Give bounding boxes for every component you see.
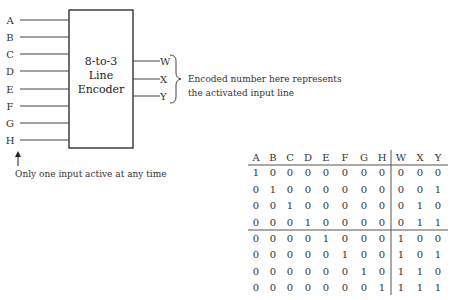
table-cell: 0 (287, 167, 293, 178)
table-cell: 1 (270, 184, 276, 195)
table-cell: 0 (253, 233, 259, 244)
table-header-f: F (342, 152, 349, 163)
table-cell: 1 (417, 282, 423, 293)
table-cell: 0 (417, 233, 423, 244)
table-cell: 0 (323, 200, 329, 211)
table-cell: 0 (253, 282, 259, 293)
table-cell: 0 (417, 184, 423, 195)
table-header-d: D (304, 152, 312, 163)
table-cell: 1 (305, 217, 311, 228)
input-label-g: G (6, 118, 14, 129)
table-header-y: Y (434, 152, 442, 163)
table-cell: 0 (361, 249, 367, 260)
table-cell: 1 (417, 217, 423, 228)
output-annotation-line-1: Encoded number here represents (188, 74, 342, 84)
table-row: 10000000000 (253, 167, 441, 178)
encoder-title-line-1: 8-to-3 (85, 55, 117, 68)
table-cell: 0 (323, 249, 329, 260)
table-cell: 0 (287, 184, 293, 195)
table-header-g: G (360, 152, 368, 163)
table-cell: 1 (435, 217, 441, 228)
table-cell: 0 (305, 233, 311, 244)
table-cell: 0 (253, 200, 259, 211)
table-cell: 0 (398, 184, 404, 195)
table-cell: 1 (435, 249, 441, 260)
table-cell: 0 (287, 217, 293, 228)
table-cell: 0 (270, 200, 276, 211)
table-cell: 1 (379, 282, 385, 293)
table-header-h: H (378, 152, 387, 163)
output-lines: WXY (133, 56, 171, 102)
table-cell: 0 (270, 249, 276, 260)
input-label-h: H (6, 135, 15, 146)
table-cell: 0 (435, 167, 441, 178)
table-header-x: X (416, 152, 424, 163)
table-cell: 1 (342, 249, 348, 260)
table-row: 00000010110 (253, 266, 441, 277)
table-cell: 1 (435, 184, 441, 195)
table-cell: 0 (417, 167, 423, 178)
table-header-b: B (269, 152, 276, 163)
encoder-title-line-2: Line (89, 69, 113, 82)
table-cell: 0 (270, 217, 276, 228)
table-cell: 0 (323, 184, 329, 195)
table-cell: 0 (379, 217, 385, 228)
table-cell: 1 (417, 200, 423, 211)
table-header-a: A (251, 152, 260, 163)
table-cell: 0 (342, 266, 348, 277)
table-cell: 0 (379, 184, 385, 195)
input-label-b: B (6, 32, 13, 43)
table-cell: 1 (398, 266, 404, 277)
table-cell: 1 (398, 249, 404, 260)
table-cell: 0 (305, 282, 311, 293)
table-cell: 0 (342, 200, 348, 211)
table-row: 01000000001 (253, 184, 441, 195)
table-cell: 0 (287, 233, 293, 244)
encoder-title-line-3: Encoder (78, 83, 125, 96)
input-label-a: A (5, 15, 14, 26)
table-cell: 0 (253, 249, 259, 260)
table-cell: 0 (435, 233, 441, 244)
table-header-c: C (286, 152, 294, 163)
table-cell: 0 (361, 200, 367, 211)
table-cell: 0 (361, 167, 367, 178)
table-cell: 1 (287, 200, 293, 211)
table-cell: 1 (417, 266, 423, 277)
table-cell: 0 (253, 266, 259, 277)
table-cell: 0 (305, 249, 311, 260)
table-cell: 1 (398, 233, 404, 244)
encoder-diagram: 8-to-3 Line Encoder ABCDEFGH WXY Encoded… (0, 0, 458, 300)
table-row: 00001000100 (253, 233, 441, 244)
table-cell: 0 (253, 217, 259, 228)
table-cell: 0 (305, 266, 311, 277)
table-cell: 0 (342, 233, 348, 244)
table-cell: 0 (417, 249, 423, 260)
table-row: 00000001111 (253, 282, 441, 293)
table-cell: 0 (270, 167, 276, 178)
input-label-d: D (6, 66, 14, 77)
input-label-f: F (7, 101, 14, 112)
output-annotation-line-2: the activated input line (188, 88, 294, 98)
output-label-w: W (160, 56, 171, 67)
input-label-e: E (6, 84, 13, 95)
table-cell: 0 (342, 217, 348, 228)
table-cell: 0 (270, 233, 276, 244)
table-cell: 0 (342, 282, 348, 293)
table-cell: 0 (379, 167, 385, 178)
table-cell: 1 (253, 167, 259, 178)
table-cell: 0 (323, 217, 329, 228)
output-brace (170, 55, 181, 103)
table-cell: 0 (323, 167, 329, 178)
table-cell: 0 (342, 167, 348, 178)
table-cell: 0 (287, 282, 293, 293)
table-cell: 1 (398, 282, 404, 293)
table-cell: 0 (379, 200, 385, 211)
table-cell: 0 (287, 266, 293, 277)
input-lines: ABCDEFGH (5, 15, 69, 146)
table-cell: 0 (361, 217, 367, 228)
table-cell: 0 (305, 200, 311, 211)
table-cell: 0 (379, 249, 385, 260)
table-cell: 0 (361, 233, 367, 244)
table-cell: 0 (323, 266, 329, 277)
table-row: 00010000011 (253, 217, 441, 228)
